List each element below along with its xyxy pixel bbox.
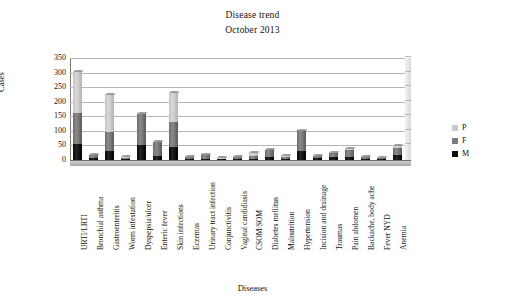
bar-segment-f [105, 132, 114, 151]
bar-segment-f [137, 114, 146, 145]
x-axis-tick-labels: URTI/LRTIBronchial asthmaGastroenteritis… [70, 166, 411, 252]
x-tick-label: Hypertension [304, 209, 312, 250]
plot-area [70, 58, 405, 160]
bar-segment-f [169, 122, 178, 147]
bar-top-cap [122, 155, 131, 157]
bar-segment-f [393, 148, 402, 154]
disease-trend-chart: Disease trend October 2013 Cases 0501001… [0, 0, 505, 307]
legend-swatch-icon [452, 138, 458, 144]
bar-segment-f [89, 155, 98, 158]
gridline-depth-100 [405, 129, 411, 130]
gridline-depth-50 [405, 143, 411, 144]
bar-top-cap [154, 140, 163, 142]
y-tick-250: 250 [40, 83, 66, 91]
legend-swatch-icon [452, 151, 458, 157]
bar-segment-f [265, 150, 274, 157]
bar-segment-m [137, 145, 146, 160]
x-tick-label: CSOM/SOM [256, 210, 264, 250]
bar-segment-p [105, 94, 114, 133]
x-tick-label: Gastroenteritis [113, 205, 121, 250]
bar-segment-f [249, 156, 258, 159]
bar-segment-m [169, 147, 178, 160]
gridline-depth-200 [405, 100, 411, 101]
chart-title-block: Disease trend October 2013 [0, 8, 505, 38]
bar-segment-p [169, 92, 178, 123]
x-tick-label: Traumas [336, 224, 344, 250]
bar-segment-f [297, 130, 306, 151]
x-axis-title: Diseases [0, 283, 505, 293]
y-tick-300: 300 [40, 69, 66, 77]
bar-top-cap [378, 156, 387, 158]
bar-top-cap [282, 154, 291, 156]
x-tick-label: Urinary tract infection [209, 182, 217, 250]
x-tick-label: Backache, body ache [368, 186, 376, 250]
bar-segment-f [313, 156, 322, 159]
bar-segment-f [73, 113, 82, 144]
legend-label: F [462, 136, 466, 145]
bar-segment-m [297, 151, 306, 160]
y-axis-title: Cases [0, 72, 6, 92]
bar-segment-f [377, 158, 386, 159]
x-tick-label: Bronchial asthma [97, 197, 105, 250]
gridline-depth-300 [405, 71, 411, 72]
x-tick-label: Diabetes mellitus [272, 197, 280, 250]
x-tick-label: Dyspepsia/ulcer [145, 201, 153, 250]
bar-top-cap [202, 153, 211, 155]
x-tick-label: Worm infestation [129, 197, 137, 250]
x-tick-label: Skin infections [177, 204, 185, 250]
chart-legend: PFM [452, 121, 496, 160]
bar-top-cap [218, 156, 227, 158]
y-axis-tick-labels: 050100150200250300350 [38, 50, 66, 170]
x-tick-label: Vaginal candidiasis [241, 191, 249, 250]
y-tick-50: 50 [40, 141, 66, 149]
legend-item-m: M [452, 147, 496, 160]
bar-top-cap [234, 155, 243, 157]
bar-segment-f [153, 142, 162, 157]
chart-title: Disease trend [0, 8, 505, 23]
bar-segment-m [105, 151, 114, 160]
bar-segment-f [345, 150, 354, 156]
bar-top-cap [266, 148, 275, 150]
y-tick-150: 150 [40, 112, 66, 120]
bar-top-cap [170, 91, 179, 93]
plot-right-wall [405, 58, 411, 160]
legend-label: P [462, 123, 466, 132]
chart-subtitle: October 2013 [0, 23, 505, 38]
x-tick-label: Conjunctivitis [225, 207, 233, 250]
gridline-depth-150 [405, 114, 411, 115]
bar-segment-m [73, 144, 82, 160]
x-tick-label: URTI/LRTI [81, 214, 89, 250]
y-tick-0: 0 [40, 156, 66, 164]
x-tick-label: Malnutrition [288, 212, 296, 250]
y-tick-350: 350 [40, 54, 66, 62]
bar-segment-f [361, 157, 370, 159]
bar-series-container [70, 58, 405, 160]
y-tick-200: 200 [40, 98, 66, 106]
bar-top-cap [298, 129, 307, 131]
bar-segment-f [281, 157, 290, 159]
bar-segment-f [185, 157, 194, 159]
x-tick-label: Eczemas [193, 223, 201, 250]
x-tick-label: Fever NYD [384, 214, 392, 250]
bar-segment-f [201, 154, 210, 158]
x-tick-label: Incision and drainage [320, 185, 328, 250]
gridline-depth-250 [405, 85, 411, 86]
legend-label: M [462, 149, 469, 158]
bar-segment-p [73, 71, 82, 113]
legend-swatch-icon [452, 125, 458, 131]
bar-top-cap [394, 144, 403, 146]
legend-item-p: P [452, 121, 496, 134]
x-tick-label: Pain abdomen [352, 207, 360, 250]
bar-top-cap [106, 93, 115, 95]
x-tick-label: Enteric fever [161, 211, 169, 250]
bar-segment-f [329, 153, 338, 157]
gridline-depth-350 [405, 56, 411, 57]
x-tick-label: Anemia [400, 226, 408, 250]
bar-top-cap [250, 151, 259, 153]
y-tick-100: 100 [40, 127, 66, 135]
bar-segment-f [121, 158, 130, 159]
legend-item-f: F [452, 134, 496, 147]
bar-top-cap [314, 154, 323, 156]
